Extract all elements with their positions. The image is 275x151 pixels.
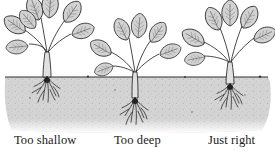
caption-too-shallow: Too shallow (14, 133, 76, 148)
caption-just-right: Just right (208, 133, 255, 148)
caption-too-deep: Too deep (114, 133, 161, 148)
planting-depth-illustration (0, 0, 275, 151)
